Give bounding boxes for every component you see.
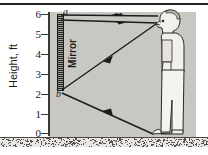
incident-ray-foot-to-mirror-bottom <box>62 93 153 134</box>
figure-canvas: 6 5 4 3 2 1 0 Height, ft Mirror a b <box>0 0 208 155</box>
ray-and-figure-overlay <box>0 0 208 155</box>
standing-person-figure <box>152 10 184 134</box>
reflected-ray-mirror-top-to-eye <box>61 20 157 24</box>
eye-point <box>162 20 165 23</box>
incident-ray-head-to-mirror-top <box>61 13 158 16</box>
ground-hatching <box>0 137 208 147</box>
reflected-ray-mirror-bottom-to-eye <box>62 24 156 90</box>
